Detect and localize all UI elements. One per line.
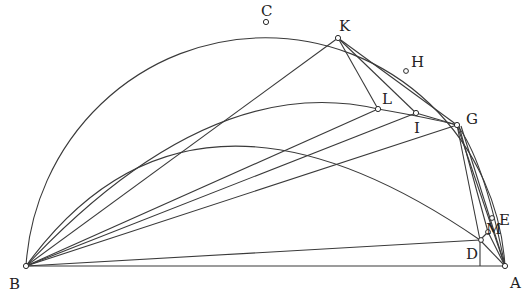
point-markers — [23, 19, 507, 268]
label-B: B — [9, 275, 20, 293]
point-A — [502, 263, 507, 268]
line-KL — [338, 38, 378, 109]
point-K — [335, 35, 340, 40]
label-G: G — [466, 110, 478, 128]
label-H: H — [411, 53, 424, 71]
line-KI — [338, 38, 416, 113]
point-H — [404, 69, 409, 74]
label-M: M — [486, 220, 501, 238]
point-I — [413, 110, 418, 115]
point-G — [454, 122, 459, 127]
point-C — [263, 19, 268, 24]
point-D — [479, 238, 484, 243]
label-K: K — [339, 17, 351, 35]
point-L — [375, 106, 380, 111]
label-I: I — [414, 119, 420, 137]
geometry-diagram: A B C D E G H I K L M — [0, 0, 528, 293]
label-A: A — [509, 274, 521, 292]
label-D: D — [466, 245, 478, 263]
line-BL — [26, 109, 378, 266]
semicircle-arc-BA — [26, 38, 505, 266]
arc-B-D — [26, 146, 480, 266]
line-IG — [416, 113, 457, 125]
label-C: C — [261, 2, 272, 20]
line-BI — [26, 113, 416, 266]
point-B — [23, 263, 28, 268]
arc-B-L-I-G — [26, 103, 505, 266]
label-L: L — [382, 90, 392, 108]
